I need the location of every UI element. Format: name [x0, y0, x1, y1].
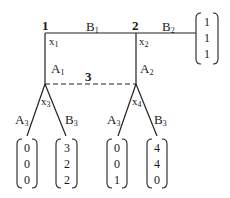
payoff-leaf4: 4 4 0	[146, 140, 168, 188]
payoff-value: 3	[56, 140, 78, 156]
x1-sub: 1	[55, 40, 59, 49]
a3l-main: A	[15, 112, 24, 127]
b1-sub: 1	[95, 26, 99, 35]
payoff-value: 2	[56, 156, 78, 172]
a2-main: A	[140, 61, 149, 76]
payoff-leaf1: 0 0 0	[16, 140, 38, 188]
a2-sub: 2	[149, 68, 153, 77]
node-3-label: 3	[85, 70, 92, 83]
payoff-value: 0	[16, 156, 38, 172]
node-2-label: 2	[132, 19, 139, 32]
payoff-value: 0	[106, 140, 128, 156]
a3l-sub: 3	[24, 119, 28, 128]
payoff-value: 0	[146, 172, 168, 188]
x2-label: x2	[139, 35, 149, 51]
payoff-value: 4	[146, 156, 168, 172]
payoff-value: 0	[106, 156, 128, 172]
b2-main: B	[162, 19, 171, 34]
payoff-value: 1	[196, 14, 218, 30]
edge-a3-right-label: A3	[107, 113, 120, 130]
payoff-value: 1	[106, 172, 128, 188]
payoff-leaf3: 0 0 1	[106, 140, 128, 188]
edge-b3-left-label: B3	[65, 113, 78, 130]
x4-label: x4	[132, 95, 142, 111]
payoff-leaf2: 3 2 2	[56, 140, 78, 188]
payoff-right: 1 1 1	[196, 14, 218, 62]
edge-b1-label: B1	[86, 20, 99, 37]
edge-b3-right-label: B3	[154, 113, 167, 130]
x4-sub: 4	[138, 100, 142, 109]
x3-label: x3	[41, 95, 51, 111]
x1-label: x1	[49, 35, 59, 51]
a3r-sub: 3	[116, 119, 120, 128]
b3r-sub: 3	[163, 119, 167, 128]
b2-sub: 2	[171, 26, 175, 35]
a3r-main: A	[107, 112, 116, 127]
b3l-main: B	[65, 112, 74, 127]
payoff-value: 0	[16, 172, 38, 188]
b3l-sub: 3	[74, 119, 78, 128]
edge-a1-label: A1	[51, 62, 64, 79]
payoff-value: 1	[196, 30, 218, 46]
b3r-main: B	[154, 112, 163, 127]
edge-b2-label: B2	[162, 20, 175, 37]
x2-sub: 2	[145, 40, 149, 49]
payoff-value: 2	[56, 172, 78, 188]
payoff-value: 1	[196, 46, 218, 62]
a1-sub: 1	[60, 68, 64, 77]
payoff-value: 4	[146, 140, 168, 156]
b1-main: B	[86, 19, 95, 34]
edge-a3-left-label: A3	[15, 113, 28, 130]
payoff-value: 0	[16, 140, 38, 156]
a1-main: A	[51, 61, 60, 76]
edge-a2-label: A2	[140, 62, 153, 79]
node-1-label: 1	[42, 19, 49, 32]
x3-sub: 3	[47, 100, 51, 109]
